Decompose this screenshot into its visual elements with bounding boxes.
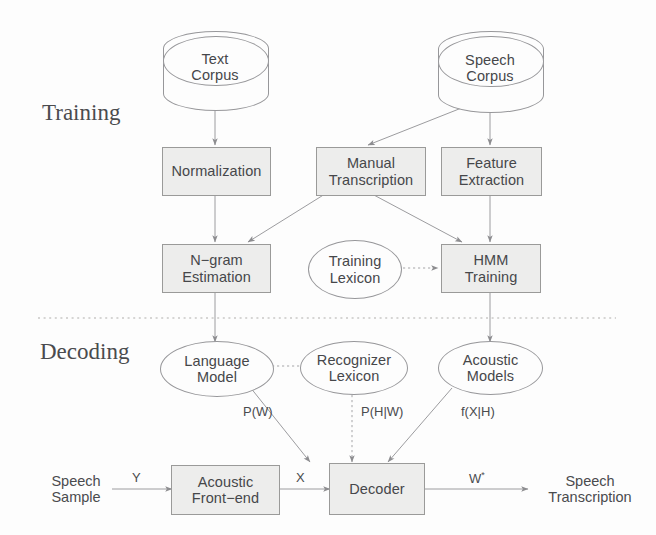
node-hmm-training[interactable]: HMM Training — [441, 244, 541, 293]
edge-label-f-x-given-h: f(X|H) — [461, 404, 495, 419]
node-language-model[interactable]: Language Model — [160, 341, 274, 397]
edge-label-output-w-base: W — [469, 471, 481, 486]
node-label-text-corpus: Text Corpus — [163, 51, 267, 83]
edge-label-signal-y: Y — [132, 470, 141, 485]
node-speech-sample: Speech Sample — [38, 473, 114, 505]
node-manual-transcription[interactable]: Manual Transcription — [316, 147, 426, 196]
edge-label-output-w-superscript: * — [481, 470, 485, 480]
edge-label-p-h-given-w: P(H|W) — [361, 404, 403, 419]
edge-label-p-w: P(W) — [243, 404, 273, 419]
node-training-lexicon[interactable]: Training Lexicon — [308, 240, 402, 299]
node-label-speech-corpus: Speech Corpus — [438, 52, 542, 84]
edge-manual-transcription-to-hmm — [372, 194, 462, 242]
edge-acoustic-models-to-decoder — [388, 388, 452, 462]
section-label-training: Training — [42, 100, 120, 126]
node-decoder[interactable]: Decoder — [329, 463, 425, 515]
node-acoustic-models[interactable]: Acoustic Models — [438, 341, 543, 395]
edge-label-output-w-star: W* — [469, 470, 485, 486]
edge-manual-transcription-to-ngram — [248, 194, 325, 242]
edge-label-features-x: X — [296, 470, 305, 485]
edge-language-model-to-decoder — [250, 387, 310, 462]
node-feature-extraction[interactable]: Feature Extraction — [441, 147, 542, 196]
section-label-decoding: Decoding — [40, 339, 129, 365]
node-normalization[interactable]: Normalization — [162, 147, 271, 196]
node-ngram-estimation[interactable]: N−gram Estimation — [162, 244, 271, 293]
node-text-corpus[interactable]: Text Corpus — [163, 31, 267, 109]
edge-speech-corpus-to-manual-transcription — [368, 107, 464, 145]
diagram-canvas: Training Decoding Text Corpus Speech Cor… — [0, 0, 656, 535]
node-speech-transcription: Speech Transcription — [528, 473, 652, 505]
node-acoustic-frontend[interactable]: Acoustic Front−end — [171, 465, 280, 515]
node-recognizer-lexicon[interactable]: Recognizer Lexicon — [300, 341, 408, 395]
node-speech-corpus[interactable]: Speech Corpus — [438, 31, 542, 111]
